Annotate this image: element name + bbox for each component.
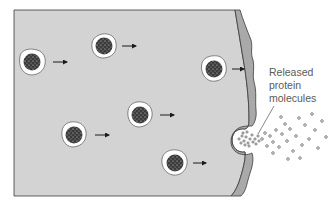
- vesicle-3: [201, 56, 226, 81]
- label-leader-line: [258, 106, 274, 134]
- vesicle-6: [162, 150, 187, 175]
- released-protein-label: Released protein molecules: [269, 66, 316, 105]
- released-protein-molecules: [261, 113, 328, 161]
- vesicle-5: [62, 122, 86, 147]
- label-line-1: Released: [269, 66, 316, 79]
- label-line-3: molecules: [269, 92, 316, 105]
- vesicle-2: [92, 34, 116, 58]
- vesicle-1: [20, 49, 46, 75]
- label-line-2: protein: [269, 79, 316, 92]
- cytoplasm: [14, 10, 249, 196]
- vesicle-4: [128, 102, 152, 127]
